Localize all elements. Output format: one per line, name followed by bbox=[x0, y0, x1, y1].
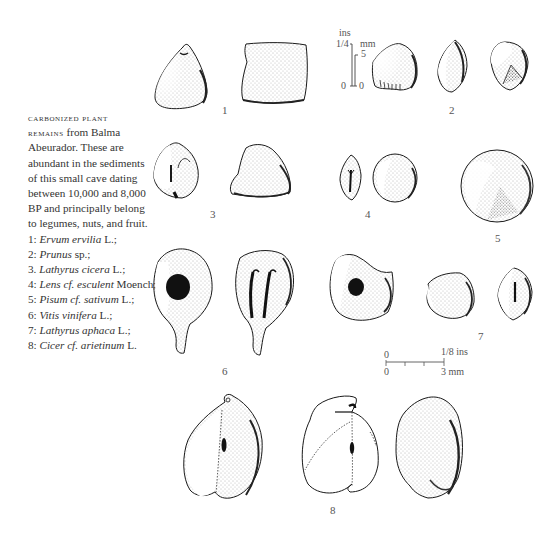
seed-7b-drawing bbox=[427, 273, 474, 319]
seed-drawings-plate: ins 1/4 mm 5 0 0 bbox=[0, 0, 560, 542]
figure-label-4: 4 bbox=[365, 208, 371, 220]
seed-4a-drawing bbox=[340, 155, 361, 200]
figure-label-8: 8 bbox=[330, 504, 336, 516]
scale-small-bottom-end: 3 mm bbox=[441, 366, 464, 377]
scale-small-bottom-zero: 0 bbox=[384, 366, 389, 377]
seed-7c-drawing bbox=[498, 268, 532, 320]
seed-2c-drawing bbox=[491, 42, 528, 90]
figure-label-6: 6 bbox=[222, 365, 228, 377]
scale-zero-ins: 0 bbox=[341, 80, 346, 91]
seed-2a-drawing bbox=[372, 44, 417, 90]
figure-label-7: 7 bbox=[478, 330, 484, 342]
seed-5-drawing bbox=[461, 150, 533, 222]
seed-1a-drawing bbox=[155, 44, 207, 108]
figure-label-1: 1 bbox=[222, 104, 228, 116]
scale-small-top-end: 1/8 ins bbox=[441, 346, 468, 357]
scale-ins-label: ins bbox=[339, 27, 351, 38]
seed-4b-drawing bbox=[373, 154, 417, 202]
scale-ins-tick: 1/4 bbox=[336, 38, 349, 49]
scale-small-top-zero: 0 bbox=[384, 349, 389, 360]
seed-3a-drawing bbox=[154, 143, 198, 198]
scale-bar-small: 0 1/8 ins 0 3 mm bbox=[384, 346, 468, 377]
scale-zero-mm: 0 bbox=[359, 80, 364, 91]
seed-7a-drawing bbox=[330, 255, 393, 321]
figure-label-2: 2 bbox=[449, 104, 455, 116]
seed-3b-drawing bbox=[230, 145, 290, 197]
figure-label-3: 3 bbox=[210, 208, 216, 220]
seed-2b-drawing bbox=[438, 40, 467, 92]
seed-8c-drawing bbox=[396, 397, 463, 498]
seed-8b-drawing bbox=[302, 396, 378, 493]
seed-6b-drawing bbox=[236, 251, 294, 355]
seed-1b-drawing bbox=[242, 43, 308, 103]
seed-6a-drawing bbox=[154, 249, 212, 353]
scale-mm-tick: 5 bbox=[361, 48, 366, 59]
figure-label-5: 5 bbox=[495, 232, 501, 244]
scale-bar-large: ins 1/4 mm 5 0 0 bbox=[336, 27, 376, 91]
seed-8a-drawing bbox=[184, 394, 262, 498]
